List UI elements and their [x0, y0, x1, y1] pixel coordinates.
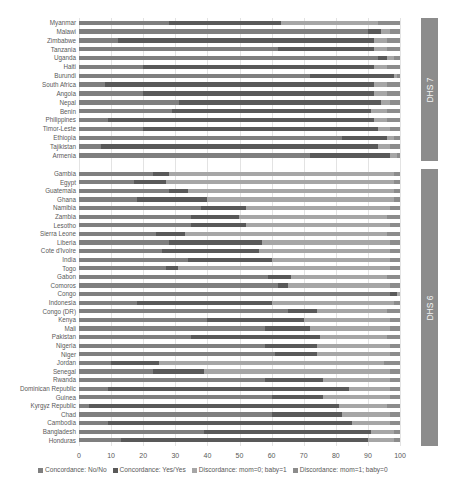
bar-segment	[191, 335, 319, 339]
bar-segment	[79, 249, 162, 253]
bar-segment	[342, 136, 387, 140]
bar-row	[79, 292, 400, 296]
bar-segment	[278, 283, 288, 287]
bar-segment	[342, 412, 390, 416]
bar-segment	[374, 118, 387, 122]
x-tick-label: 10	[107, 452, 115, 459]
country-label: Guinea	[56, 394, 76, 401]
bar-segment	[394, 430, 400, 434]
bar-row	[79, 127, 400, 131]
bar-segment	[79, 109, 172, 113]
bar-segment	[390, 369, 400, 373]
panel-label-text: DHS 7	[425, 77, 435, 102]
bar-segment	[143, 91, 374, 95]
x-tick-label: 40	[203, 452, 211, 459]
bar-segment	[79, 258, 188, 262]
country-label: Uganda	[54, 54, 76, 61]
bar-segment	[387, 232, 400, 236]
bar-segment	[323, 395, 390, 399]
stacked-bar-chart: MyanmarMalawiZimbabweTanzaniaUgandaHaiti…	[0, 0, 454, 490]
legend-item: Discordance: mom=0; baby=1	[192, 466, 287, 473]
country-label: Chad	[61, 411, 76, 418]
bar-segment	[394, 301, 400, 305]
bar-segment	[387, 275, 400, 279]
bar-segment	[387, 404, 400, 408]
bar-row	[79, 109, 400, 113]
legend-label: Concordance: Yes/Yes	[120, 466, 186, 473]
bar-segment	[390, 223, 400, 227]
legend-label: Discordance: mom=0; baby=1	[199, 466, 287, 473]
bar-row	[79, 283, 400, 287]
bar-segment	[352, 421, 391, 425]
bar-segment	[79, 180, 134, 184]
bar-segment	[79, 56, 378, 60]
bar-segment	[339, 404, 387, 408]
country-label: Armenia	[53, 152, 76, 159]
bar-segment	[169, 240, 262, 244]
bar-segment	[288, 283, 391, 287]
legend-label: Discordance: mom=1; baby=0	[300, 466, 388, 473]
bar-segment	[79, 21, 169, 25]
bar-segment	[387, 109, 400, 113]
bar-segment	[79, 361, 111, 365]
bar-segment	[143, 65, 374, 69]
bar-segment	[259, 249, 391, 253]
bar-segment	[374, 47, 387, 51]
legend-item: Concordance: Yes/Yes	[113, 466, 186, 473]
x-tick-label: 70	[300, 452, 308, 459]
bar-row	[79, 144, 400, 148]
country-label: Indonesia	[49, 299, 76, 306]
bar-segment	[281, 21, 377, 25]
bar-segment	[79, 430, 204, 434]
bar-segment	[272, 258, 391, 262]
legend-swatch-icon	[113, 468, 118, 473]
bar-row	[79, 100, 400, 104]
bar-segment	[191, 223, 246, 227]
x-tick-label: 60	[268, 452, 276, 459]
bar-segment	[204, 369, 390, 373]
bar-segment	[79, 153, 310, 157]
bar-segment	[291, 275, 387, 279]
bar-segment	[371, 109, 387, 113]
country-label: Zimbabwe	[47, 37, 76, 44]
bar-segment	[178, 266, 390, 270]
bar-row	[79, 215, 400, 219]
bar-segment	[201, 206, 246, 210]
bar-segment	[390, 144, 400, 148]
bar-segment	[323, 378, 390, 382]
bar-row	[79, 38, 400, 42]
bar-segment	[390, 421, 400, 425]
bar-segment	[137, 197, 208, 201]
bar-segment	[310, 326, 390, 330]
bar-segment	[387, 118, 400, 122]
bar-segment	[390, 29, 400, 33]
bar-row	[79, 82, 400, 86]
country-label: Haiti	[63, 63, 76, 70]
bar-segment	[394, 56, 400, 60]
bar-segment	[153, 369, 204, 373]
country-label: Sierra Leone	[40, 230, 76, 237]
country-label: Rwanda	[53, 376, 76, 383]
country-label: Namibia	[53, 204, 76, 211]
bar-segment	[172, 109, 371, 113]
bar-segment	[79, 47, 278, 51]
bar-row	[79, 189, 400, 193]
bar-segment	[79, 118, 108, 122]
bar-segment	[272, 301, 394, 305]
bar-segment	[381, 100, 391, 104]
country-label: Congo	[57, 290, 76, 297]
bar-row	[79, 136, 400, 140]
bar-segment	[79, 172, 153, 176]
bar-row	[79, 430, 400, 434]
bar-segment	[79, 29, 368, 33]
country-label: Malawi	[56, 28, 76, 35]
bar-segment	[288, 309, 317, 313]
legend-swatch-icon	[38, 468, 43, 473]
country-label: Jordan	[57, 359, 76, 366]
bar-segment	[137, 301, 272, 305]
bar-segment	[79, 326, 265, 330]
country-label: Lesotho	[54, 222, 76, 229]
bar-segment	[79, 335, 191, 339]
bar-row	[79, 412, 400, 416]
bar-segment	[79, 232, 156, 236]
